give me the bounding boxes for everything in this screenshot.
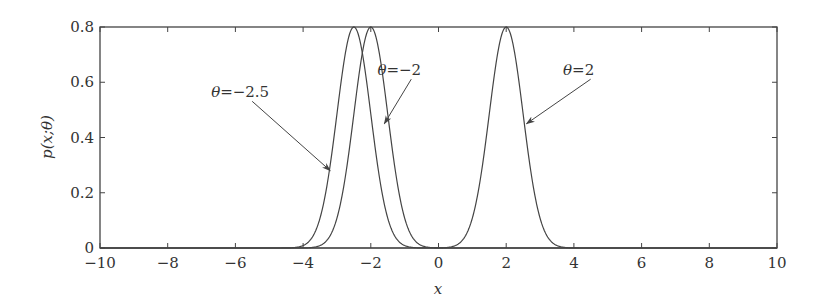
x-tick-label: 0 xyxy=(434,254,444,272)
annotation-label: θ=2 xyxy=(563,61,594,79)
annotation-arrow xyxy=(252,101,330,170)
x-tick-label: 8 xyxy=(705,254,715,272)
annotation-arrow xyxy=(527,79,591,123)
y-tick-label: 0.2 xyxy=(70,184,94,202)
y-axis-label: p(x;θ) xyxy=(38,115,56,159)
annotation-label: θ=−2 xyxy=(377,61,421,79)
x-tick-label: −8 xyxy=(157,254,179,272)
x-tick-label: −2 xyxy=(360,254,382,272)
plot-annotations: θ=−2.5θ=−2θ=2 xyxy=(211,61,594,170)
curve-theta--2 xyxy=(100,27,777,248)
x-tick-label: 10 xyxy=(767,254,786,272)
x-tick-label: −4 xyxy=(292,254,314,272)
annotation-label: θ=−2.5 xyxy=(211,83,269,101)
gaussian-likelihood-chart: −10−8−6−4−2024681000.20.40.60.8 θ=−2.5θ=… xyxy=(0,0,821,307)
y-tick-label: 0.8 xyxy=(70,18,94,36)
x-tick-label: −6 xyxy=(224,254,246,272)
y-tick-label: 0.6 xyxy=(70,73,94,91)
x-axis-label: x xyxy=(434,280,443,298)
curve-theta-2 xyxy=(100,27,777,248)
annotation-arrow xyxy=(384,79,411,123)
x-tick-label: 4 xyxy=(569,254,579,272)
plot-axes: −10−8−6−4−2024681000.20.40.60.8 xyxy=(70,18,786,272)
x-tick-label: 2 xyxy=(501,254,511,272)
y-tick-label: 0 xyxy=(84,239,94,257)
curve-theta--2.5 xyxy=(100,27,777,248)
y-tick-label: 0.4 xyxy=(70,129,94,147)
plot-frame xyxy=(100,27,777,248)
x-tick-label: 6 xyxy=(637,254,647,272)
plot-curves xyxy=(100,27,777,248)
